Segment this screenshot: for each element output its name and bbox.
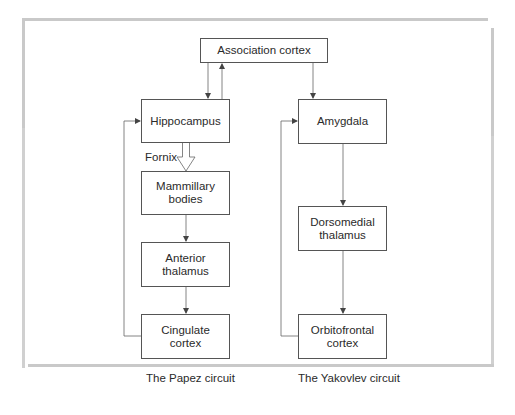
node-dorsomedial-thalamus: Dorsomedial thalamus: [298, 206, 387, 251]
fornix-arrow: [177, 143, 195, 171]
arrow-orbitofrontal-to-amygdala: [281, 121, 298, 336]
node-cingulate-cortex: Cingulate cortex: [141, 314, 230, 359]
arrow-cingulate-to-hippocampus: [124, 121, 141, 336]
node-hippocampus: Hippocampus: [141, 99, 230, 143]
node-label: Hippocampus: [150, 115, 220, 128]
node-label: Dorsomedial thalamus: [310, 216, 375, 242]
fornix-label: Fornix: [145, 151, 177, 163]
node-mammillary-bodies: Mammillary bodies: [141, 171, 230, 215]
node-label: Mammillary bodies: [156, 180, 215, 206]
caption-papez-circuit: The Papez circuit: [146, 372, 235, 384]
caption-yakovlev-circuit: The Yakovlev circuit: [298, 372, 400, 384]
node-label: Cingulate cortex: [161, 324, 210, 350]
node-label: Amygdala: [317, 115, 368, 128]
node-label: Association cortex: [217, 44, 310, 57]
node-anterior-thalamus: Anterior thalamus: [141, 242, 230, 287]
node-label: Orbitofrontal cortex: [311, 324, 374, 350]
node-label: Anterior thalamus: [162, 252, 209, 278]
node-orbitofrontal-cortex: Orbitofrontal cortex: [298, 314, 387, 359]
node-amygdala: Amygdala: [298, 99, 387, 144]
node-association-cortex: Association cortex: [200, 38, 328, 63]
